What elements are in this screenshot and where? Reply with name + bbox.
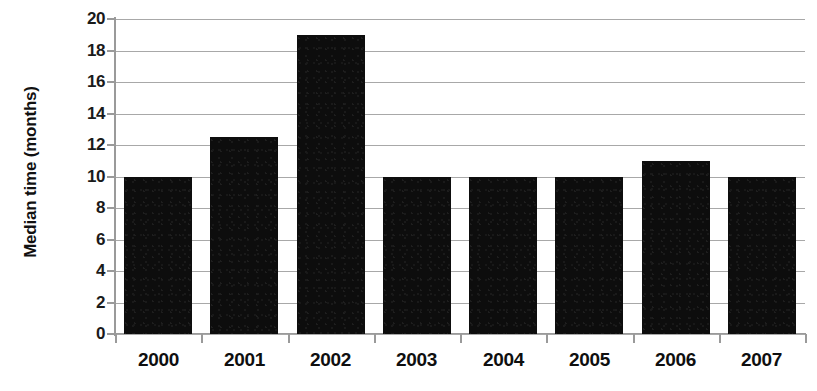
y-axis-tick-label: 0 — [63, 325, 105, 342]
y-axis-tick-mark — [107, 50, 116, 52]
y-axis-tick-label: 16 — [63, 73, 105, 90]
y-axis-tick-mark — [107, 18, 116, 20]
bar-chart-screenshot: Median time (months) 02468101214161820 2… — [0, 0, 817, 391]
y-axis-tick-label: 8 — [63, 199, 105, 216]
x-axis-tick-label-2002: 2002 — [287, 349, 374, 371]
x-axis-tick-mark — [115, 334, 117, 343]
x-axis-tick-label-2005: 2005 — [546, 349, 633, 371]
x-axis-tick-labels: 20002001200220032004200520062007 — [115, 349, 805, 379]
x-axis-tick-label-2003: 2003 — [373, 349, 460, 371]
chart-title — [0, 0, 817, 3]
bar-2001 — [210, 137, 278, 334]
x-axis-tick-label-2000: 2000 — [115, 349, 202, 371]
y-axis-tick-mark — [107, 239, 116, 241]
y-axis-tick-mark — [107, 270, 116, 272]
gridline — [115, 51, 805, 52]
gridline — [115, 82, 805, 83]
y-axis-tick-mark — [107, 144, 116, 146]
y-axis-tick-label: 6 — [63, 231, 105, 248]
x-axis-tick-mark — [633, 334, 635, 343]
x-axis-tick-mark — [288, 334, 290, 343]
bar-2007 — [728, 177, 796, 335]
x-axis-tick-label-2004: 2004 — [460, 349, 547, 371]
bar-2003 — [383, 177, 451, 335]
y-axis-tick-label: 18 — [63, 42, 105, 59]
y-axis-tick-label: 14 — [63, 105, 105, 122]
y-axis-tick-mark — [107, 302, 116, 304]
x-axis-tick-mark — [201, 334, 203, 343]
x-axis-tick-label-2001: 2001 — [201, 349, 288, 371]
y-axis-tick-mark — [107, 81, 116, 83]
bar-2000 — [124, 177, 192, 335]
x-axis-tick-mark — [719, 334, 721, 343]
y-axis-tick-label: 2 — [63, 294, 105, 311]
y-axis-tick-label: 10 — [63, 168, 105, 185]
y-axis-tick-label: 20 — [63, 10, 105, 27]
x-axis-tick-label-2006: 2006 — [632, 349, 719, 371]
gridline — [115, 19, 805, 20]
y-axis-tick-labels: 02468101214161820 — [50, 0, 105, 391]
x-axis-tick-label-2007: 2007 — [718, 349, 805, 371]
y-axis-tick-label: 4 — [63, 262, 105, 279]
y-axis-tick-label: 12 — [63, 136, 105, 153]
plot-area — [115, 19, 805, 334]
y-axis-title: Median time (months) — [21, 22, 45, 322]
y-axis-tick-mark — [107, 207, 116, 209]
x-axis-tick-mark — [374, 334, 376, 343]
bar-2004 — [469, 177, 537, 335]
bar-2002 — [297, 35, 365, 334]
y-axis-tick-mark — [107, 176, 116, 178]
bar-2006 — [642, 161, 710, 334]
y-axis-tick-mark — [107, 113, 116, 115]
x-axis-tick-mark — [546, 334, 548, 343]
gridline — [115, 114, 805, 115]
bar-2005 — [555, 177, 623, 335]
x-axis-tick-mark — [805, 334, 807, 343]
x-axis-tick-mark — [460, 334, 462, 343]
